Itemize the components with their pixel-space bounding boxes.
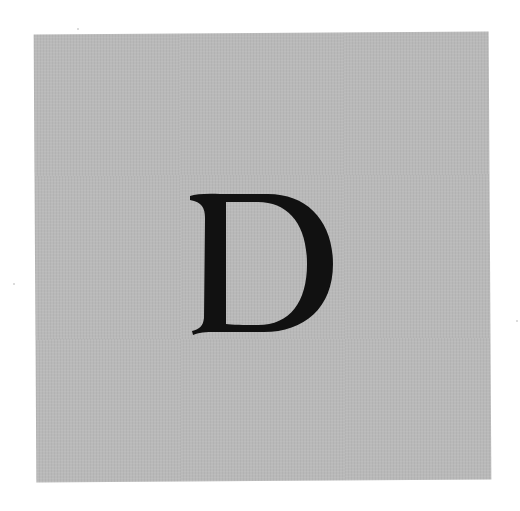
scan-speck bbox=[77, 28, 79, 30]
scan-speck bbox=[13, 283, 15, 285]
letter-d-icon bbox=[186, 180, 338, 342]
scan-speck bbox=[516, 320, 518, 322]
letter-d-glyph: D bbox=[186, 180, 338, 342]
